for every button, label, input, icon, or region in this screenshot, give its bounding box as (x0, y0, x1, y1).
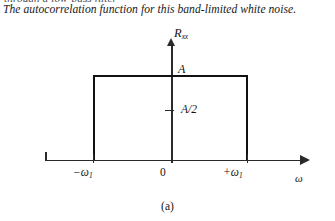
amplitude-label-a: A (178, 62, 185, 77)
y-axis-label: Rxx (174, 26, 188, 41)
caption-sentence: The autocorrelation function for this ba… (3, 3, 335, 16)
x-tick-label-negative: −ω1 (73, 166, 93, 180)
cutoff-text-above: through a low-pass filter (4, 0, 324, 2)
x-tick-label-negative-base: −ω (73, 166, 89, 178)
x-tick-origin (171, 154, 172, 163)
y-tick-a-half (165, 110, 174, 111)
x-axis-label: ω (295, 172, 303, 184)
x-tick-label-negative-subscript: 1 (89, 171, 93, 180)
amplitude-label-a-half: A/2 (181, 103, 197, 115)
x-axis-arrow-icon (300, 155, 310, 165)
plot-figure: Rxx A A/2 −ω1 0 +ω1 ω (a) (0, 20, 335, 221)
x-tick-positive-omega1 (247, 154, 248, 163)
rectangular-pulse-curve (93, 75, 248, 160)
x-tick-label-positive: +ω1 (223, 166, 243, 180)
x-tick-label-positive-base: +ω (223, 166, 239, 178)
figure-page: through a low-pass filter The autocorrel… (0, 0, 335, 221)
x-tick-label-positive-subscript: 1 (239, 171, 243, 180)
y-axis-label-main: R (174, 26, 182, 40)
figure-caption: (a) (0, 200, 335, 212)
y-axis-label-subscript: xx (182, 32, 188, 41)
x-tick-negative-omega1 (93, 154, 94, 163)
x-tick-label-origin: 0 (160, 166, 166, 178)
x-axis-left-endcap-tick (45, 152, 47, 161)
